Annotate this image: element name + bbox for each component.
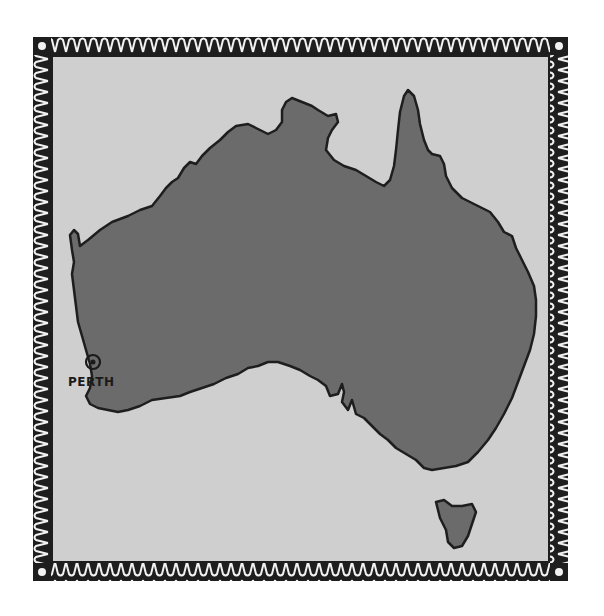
decorative-map-frame: PERTH <box>33 37 568 581</box>
australia-mainland <box>70 90 536 470</box>
corner-dot-top-left <box>38 42 46 50</box>
australia-map <box>51 55 550 563</box>
corner-dot-bottom-left <box>38 568 46 576</box>
map-canvas: PERTH <box>51 55 550 563</box>
corner-dot-bottom-right <box>555 568 563 576</box>
tasmania <box>436 500 476 548</box>
city-label-perth: PERTH <box>68 375 114 389</box>
corner-dot-top-right <box>555 42 563 50</box>
